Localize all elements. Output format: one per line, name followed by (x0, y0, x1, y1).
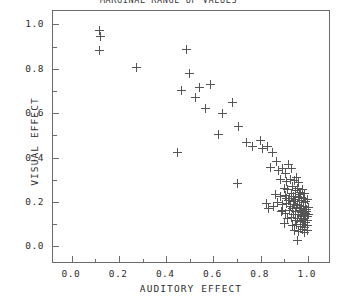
data-point (287, 164, 296, 173)
y-tick-major (53, 113, 59, 114)
data-point (191, 93, 200, 102)
data-point (214, 130, 223, 139)
y-tick-minor (53, 47, 57, 48)
x-tick-minor (284, 259, 285, 263)
data-point (218, 109, 227, 118)
data-point (234, 122, 243, 131)
data-point (185, 69, 194, 78)
y-tick-minor (53, 91, 57, 92)
x-tick-major (166, 256, 167, 262)
plot-frame (52, 10, 330, 263)
data-point (228, 98, 237, 107)
y-tick-minor (53, 135, 57, 136)
data-point (278, 206, 287, 215)
x-tick-major (72, 256, 73, 262)
data-point (182, 45, 191, 54)
data-point (268, 148, 277, 157)
x-tick-label: 1.0 (297, 268, 316, 279)
data-point (300, 214, 309, 223)
data-point (206, 80, 215, 89)
data-point (282, 194, 291, 203)
x-tick-major (119, 256, 120, 262)
y-tick-label: 1.0 (25, 18, 44, 29)
data-point (132, 63, 141, 72)
x-tick-label: 0.8 (250, 268, 269, 279)
x-tick-minor (95, 259, 96, 263)
data-point (173, 148, 182, 157)
y-tick-major (53, 246, 59, 247)
data-point (296, 206, 305, 215)
y-tick-label: 0.0 (25, 240, 44, 251)
y-tick-major (53, 24, 59, 25)
x-tick-label: 0.6 (203, 268, 222, 279)
data-point (233, 179, 242, 188)
x-tick-major (261, 256, 262, 262)
data-point (177, 86, 186, 95)
data-point (201, 104, 210, 113)
x-tick-major (308, 256, 309, 262)
y-tick-major (53, 202, 59, 203)
data-point (269, 202, 278, 211)
data-point (303, 226, 312, 235)
x-tick-minor (143, 259, 144, 263)
y-tick-major (53, 69, 59, 70)
y-axis-label: VISUAL EFFECT (29, 62, 40, 222)
x-axis-label: AUDITORY EFFECT (52, 283, 330, 294)
data-point (293, 236, 302, 245)
data-point (195, 83, 204, 92)
scatter-plot-figure: MARGINAL RANGE OF VALUES 0.00.20.40.60.8… (0, 0, 337, 304)
x-tick-label: 0.4 (156, 268, 175, 279)
x-tick-minor (190, 259, 191, 263)
chart-title: MARGINAL RANGE OF VALUES (0, 0, 337, 5)
y-tick-major (53, 158, 59, 159)
x-tick-label: 0.0 (62, 268, 81, 279)
x-tick-major (213, 256, 214, 262)
y-tick-minor (53, 224, 57, 225)
x-tick-minor (237, 259, 238, 263)
y-tick-minor (53, 180, 57, 181)
data-point (95, 46, 104, 55)
data-point (96, 32, 105, 41)
x-tick-label: 0.2 (109, 268, 128, 279)
data-points-layer (53, 11, 329, 262)
